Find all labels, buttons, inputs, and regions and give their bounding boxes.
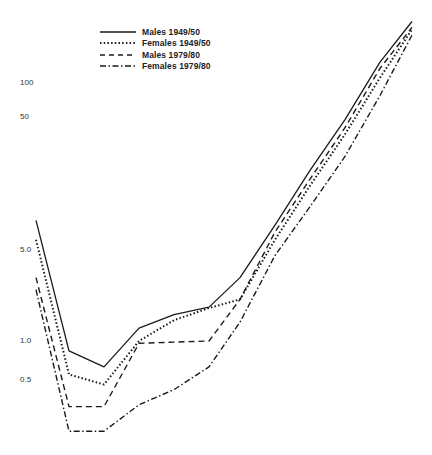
y-tick-label: 5.0 bbox=[20, 245, 31, 254]
legend-label: Males 1979/80 bbox=[142, 50, 200, 60]
y-tick-label: 100 bbox=[20, 78, 33, 87]
series-line-0 bbox=[36, 22, 412, 367]
dash-dot-line-icon bbox=[100, 63, 136, 69]
y-tick-label: 0.5 bbox=[20, 375, 31, 384]
legend: Males 1949/50 Females 1949/50 Males 1979… bbox=[100, 26, 211, 72]
legend-item-males-1979: Males 1979/80 bbox=[100, 49, 211, 61]
series-line-1 bbox=[36, 30, 412, 385]
dotted-line-icon bbox=[100, 40, 136, 46]
series-line-3 bbox=[36, 35, 412, 431]
y-tick-label: 50 bbox=[20, 112, 29, 121]
legend-label: Males 1949/50 bbox=[142, 27, 200, 37]
series-line-2 bbox=[36, 27, 412, 406]
dashed-line-icon bbox=[100, 52, 136, 58]
series-lines bbox=[36, 22, 412, 432]
legend-item-males-1949: Males 1949/50 bbox=[100, 26, 211, 38]
legend-item-females-1979: Females 1979/80 bbox=[100, 61, 211, 73]
y-tick-label: 1.0 bbox=[20, 336, 31, 345]
solid-line-icon bbox=[100, 29, 136, 35]
line-chart bbox=[0, 0, 432, 455]
legend-item-females-1949: Females 1949/50 bbox=[100, 38, 211, 50]
legend-label: Females 1979/80 bbox=[142, 61, 211, 71]
legend-label: Females 1949/50 bbox=[142, 38, 211, 48]
